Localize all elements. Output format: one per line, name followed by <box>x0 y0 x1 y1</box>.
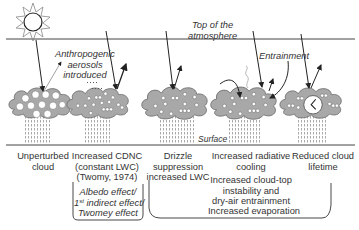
clock-icon <box>304 96 322 114</box>
sun-icon <box>16 3 50 41</box>
caption-line: instability and <box>208 186 294 197</box>
bracket-line: Albedo effect/ <box>74 187 142 198</box>
bracket-rest: indirect effect/ <box>84 198 144 208</box>
caption-line: (constant LWC) <box>70 162 144 173</box>
cloud-icon <box>211 87 276 119</box>
aerosol-label-line2: aerosols <box>55 60 115 71</box>
aerosol-label-line1: Anthropogenic <box>55 49 115 60</box>
caption-reduced-lifetime: Reduced cloud lifetime <box>290 151 356 172</box>
caption-line: dry-air entrainment <box>208 196 294 207</box>
caption-line: Drizzle <box>146 151 210 162</box>
caption-line: cooling <box>208 162 294 173</box>
surface-label: Surface <box>198 134 227 145</box>
bracket-line: 1st indirect effect/ <box>74 198 142 209</box>
caption-line: suppression <box>146 162 210 173</box>
caption-increased-cdnc: Increased CDNC (constant LWC) (Twomy, 19… <box>70 151 144 183</box>
caption-unperturbed: Unperturbed cloud <box>8 151 78 172</box>
caption-radiative-cooling: Increased radiative cooling Increased cl… <box>208 151 294 207</box>
caption-line: Increased CDNC <box>70 151 144 162</box>
caption-line: Unperturbed <box>8 151 78 162</box>
top-of-atmosphere-label: Top of the atmosphere <box>188 20 237 41</box>
caption-line: Increased cloud-top <box>208 175 294 186</box>
top-label-line2: atmosphere <box>188 31 237 42</box>
entrainment-label: Entrainment <box>259 51 309 62</box>
caption-drizzle-suppression: Drizzle suppression increased LWC <box>146 151 210 183</box>
caption-line: lifetime <box>290 162 356 173</box>
cloud-icon <box>9 88 70 118</box>
caption-line: increased LWC <box>146 172 210 183</box>
cloud-icon <box>280 88 341 118</box>
caption-line: cloud <box>8 162 78 173</box>
top-label-line1: Top of the <box>188 20 237 31</box>
bracket-line: Twomey effect <box>74 208 142 219</box>
increased-evaporation-label: Increased evaporation <box>205 206 303 217</box>
albedo-effect-label: Albedo effect/ 1st indirect effect/ Twom… <box>74 187 142 219</box>
aerosol-label-line3: introduced <box>55 70 115 81</box>
aerosol-label: Anthropogenic aerosols introduced <box>55 49 115 81</box>
caption-line: Reduced cloud <box>290 151 356 162</box>
cloud-icon <box>142 87 207 119</box>
caption-line: Increased radiative <box>208 151 294 162</box>
cloud-icon <box>67 88 128 118</box>
caption-line: (Twomy, 1974) <box>70 172 144 183</box>
diagram-canvas <box>0 0 359 230</box>
